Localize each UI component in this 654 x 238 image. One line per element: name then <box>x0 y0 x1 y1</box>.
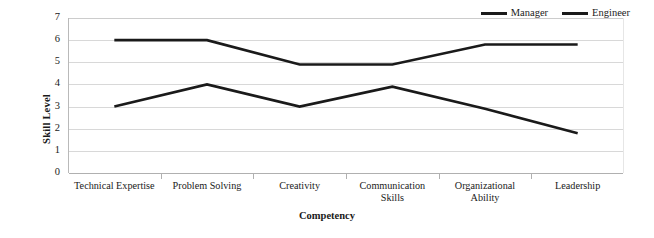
y-tick-label-3: 3 <box>44 101 60 112</box>
line-chart: Manager Engineer Skill Level 01234567 Te… <box>0 0 654 238</box>
legend-item-manager[interactable]: Manager <box>481 8 548 19</box>
gridline-2 <box>69 129 623 130</box>
x-tick-5 <box>531 173 532 179</box>
plot-area <box>68 18 624 173</box>
legend-label-manager: Manager <box>511 8 548 19</box>
y-tick-label-4: 4 <box>44 78 60 89</box>
x-tick-3 <box>346 173 347 179</box>
x-tick-4 <box>439 173 440 179</box>
y-tick-label-6: 6 <box>44 34 60 45</box>
gridline-5 <box>69 62 623 63</box>
legend-item-engineer[interactable]: Engineer <box>562 8 630 19</box>
gridline-7 <box>69 18 623 19</box>
y-tick-label-2: 2 <box>44 123 60 134</box>
chart-legend: Manager Engineer <box>481 8 630 19</box>
x-tick-label-4: Organizational Ability <box>439 180 532 204</box>
y-tick-label-0: 0 <box>44 167 60 178</box>
x-tick-label-3: Communication Skills <box>346 180 439 204</box>
x-tick-label-1: Problem Solving <box>161 180 254 192</box>
gridline-6 <box>69 40 623 41</box>
legend-line-swatch-engineer <box>562 12 588 15</box>
legend-label-engineer: Engineer <box>592 8 630 19</box>
gridline-4 <box>69 84 623 85</box>
y-tick-label-1: 1 <box>44 145 60 156</box>
y-tick-label-5: 5 <box>44 56 60 67</box>
x-tick-label-5: Leadership <box>531 180 624 192</box>
x-axis-title: Competency <box>0 210 654 221</box>
x-tick-1 <box>161 173 162 179</box>
x-tick-label-0: Technical Expertise <box>68 180 161 192</box>
y-tick-label-7: 7 <box>44 12 60 23</box>
gridline-1 <box>69 151 623 152</box>
legend-line-swatch-manager <box>481 12 507 15</box>
gridline-3 <box>69 107 623 108</box>
x-tick-2 <box>253 173 254 179</box>
x-tick-label-2: Creativity <box>253 180 346 192</box>
